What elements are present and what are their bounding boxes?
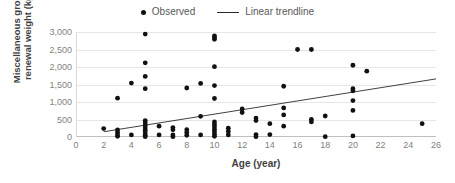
- data-point: [198, 114, 203, 119]
- data-point: [171, 134, 176, 139]
- data-point: [171, 127, 176, 132]
- data-point: [351, 88, 356, 93]
- data-point: [101, 126, 106, 131]
- data-point: [157, 133, 162, 138]
- data-point: [143, 74, 148, 79]
- data-point: [143, 32, 148, 37]
- data-point: [351, 108, 356, 113]
- data-point: [226, 133, 231, 138]
- data-point: [420, 121, 425, 126]
- data-point: [212, 37, 217, 42]
- data-point: [254, 134, 259, 139]
- data-point: [281, 84, 286, 89]
- data-point: [323, 134, 328, 139]
- data-point: [281, 124, 286, 129]
- scatter-chart: Observed Linear trendline Miscellaneous …: [0, 0, 455, 183]
- data-point: [364, 69, 369, 74]
- data-point: [295, 47, 300, 52]
- data-point: [281, 113, 286, 118]
- data-point: [129, 81, 134, 86]
- data-point: [157, 124, 162, 129]
- data-point: [115, 96, 120, 101]
- chart-data-layer: [0, 0, 455, 183]
- data-point: [143, 86, 148, 91]
- data-point: [212, 64, 217, 69]
- data-point: [309, 47, 314, 52]
- data-point: [212, 83, 217, 88]
- data-point: [184, 86, 189, 91]
- data-point: [351, 98, 356, 103]
- data-point: [184, 133, 189, 138]
- data-point: [267, 121, 272, 126]
- data-point: [198, 81, 203, 86]
- data-point: [115, 134, 120, 139]
- data-point: [212, 96, 217, 101]
- data-point: [351, 63, 356, 68]
- data-point: [351, 134, 356, 139]
- data-point: [267, 132, 272, 137]
- data-point: [212, 134, 217, 139]
- data-point: [254, 118, 259, 123]
- data-point: [323, 114, 328, 119]
- data-point: [309, 120, 314, 125]
- data-point: [143, 134, 148, 139]
- data-point: [143, 60, 148, 65]
- data-point: [129, 133, 134, 138]
- data-point: [198, 133, 203, 138]
- data-point: [281, 106, 286, 111]
- data-point: [240, 110, 245, 115]
